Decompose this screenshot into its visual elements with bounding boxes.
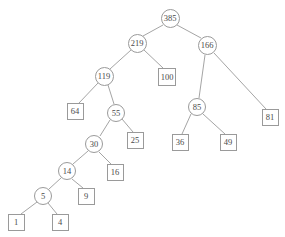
tree-node-internal-385: 385: [161, 9, 180, 28]
tree-node-leaf-49: 49: [220, 134, 237, 151]
tree-node-internal-14: 14: [58, 162, 76, 180]
binary-tree-diagram: 385219166119100858164553649302514165914: [0, 0, 285, 237]
tree-edge: [177, 25, 201, 38]
tree-edge: [110, 50, 131, 69]
tree-node-internal-55: 55: [107, 104, 125, 122]
tree-node-internal-5: 5: [34, 187, 52, 205]
tree-node-internal-85: 85: [188, 98, 206, 116]
tree-node-leaf-36: 36: [172, 134, 189, 151]
tree-edge: [144, 50, 163, 68]
tree-edge: [143, 25, 163, 36]
tree-node-leaf-64: 64: [67, 103, 84, 120]
tree-node-leaf-25: 25: [127, 132, 144, 149]
tree-edge: [79, 83, 98, 103]
tree-edge: [48, 203, 57, 214]
tree-edge: [100, 120, 110, 136]
tree-edge: [73, 151, 88, 164]
tree-node-internal-219: 219: [128, 34, 147, 53]
tree-edge: [214, 53, 266, 109]
tree-edge: [21, 202, 37, 214]
tree-edge: [49, 178, 61, 189]
tree-node-leaf-100: 100: [158, 68, 176, 86]
tree-node-internal-119: 119: [95, 67, 114, 86]
tree-node-leaf-1: 1: [8, 214, 25, 231]
tree-node-leaf-9: 9: [78, 188, 95, 205]
tree-node-leaf-4: 4: [52, 214, 69, 231]
tree-node-leaf-16: 16: [107, 164, 124, 181]
tree-node-leaf-81: 81: [262, 109, 279, 126]
tree-node-internal-166: 166: [198, 36, 217, 55]
tree-edge: [99, 152, 111, 164]
tree-edge: [199, 55, 205, 98]
tree-edge: [122, 119, 133, 132]
tree-edge: [182, 114, 191, 134]
tree-node-internal-30: 30: [85, 135, 103, 153]
tree-edge: [203, 114, 225, 134]
tree-edge: [108, 85, 114, 104]
